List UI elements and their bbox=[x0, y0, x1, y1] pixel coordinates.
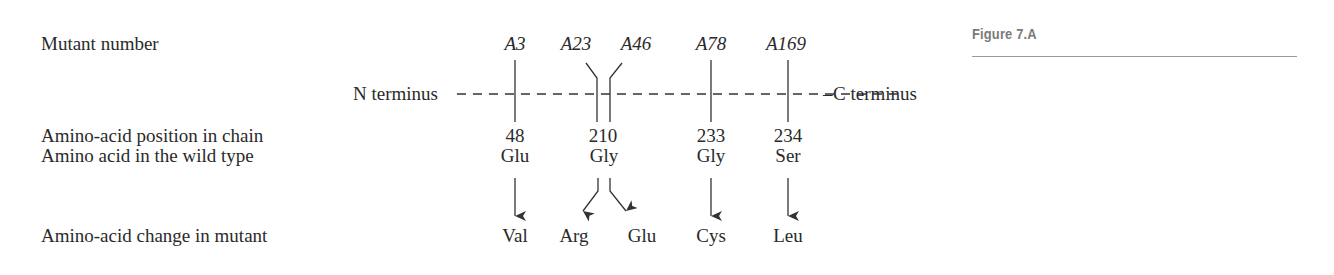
row-label-wild-type: Amino acid in the wild type bbox=[41, 145, 254, 167]
wild-type-gly-233: Gly bbox=[697, 145, 726, 167]
figure-label: Figure 7.A bbox=[972, 25, 1037, 42]
row-label-mutant-number: Mutant number bbox=[41, 33, 159, 55]
arrow-gly-arg bbox=[583, 178, 598, 211]
position-210: 210 bbox=[589, 125, 618, 147]
c-terminus-dash: – bbox=[823, 83, 833, 105]
n-terminus-label: N terminus bbox=[353, 83, 438, 105]
position-233: 233 bbox=[697, 125, 726, 147]
marker-a46 bbox=[610, 63, 622, 122]
position-48: 48 bbox=[506, 125, 525, 147]
c-terminus-label: C terminus bbox=[833, 83, 917, 105]
figure-label-rule bbox=[972, 56, 1297, 57]
arrow-gly-glu bbox=[610, 178, 626, 211]
wild-type-glu: Glu bbox=[501, 145, 530, 167]
mutant-aa-leu: Leu bbox=[773, 225, 803, 247]
mutant-aa-cys: Cys bbox=[696, 225, 726, 247]
wild-type-ser: Ser bbox=[775, 145, 800, 167]
mutant-label-a78: A78 bbox=[696, 33, 727, 55]
mutant-label-a169: A169 bbox=[766, 33, 806, 55]
wild-type-gly-210: Gly bbox=[590, 145, 619, 167]
mutant-label-a3: A3 bbox=[504, 33, 525, 55]
mutant-label-a23: A23 bbox=[561, 33, 592, 55]
mutant-aa-glu: Glu bbox=[628, 225, 657, 247]
row-label-position: Amino-acid position in chain bbox=[41, 125, 263, 147]
mutant-aa-val: Val bbox=[502, 225, 527, 247]
mutant-label-a46: A46 bbox=[621, 33, 652, 55]
mutant-aa-arg: Arg bbox=[559, 225, 588, 247]
row-label-change: Amino-acid change in mutant bbox=[41, 225, 267, 247]
marker-a23 bbox=[586, 63, 597, 122]
position-234: 234 bbox=[774, 125, 803, 147]
